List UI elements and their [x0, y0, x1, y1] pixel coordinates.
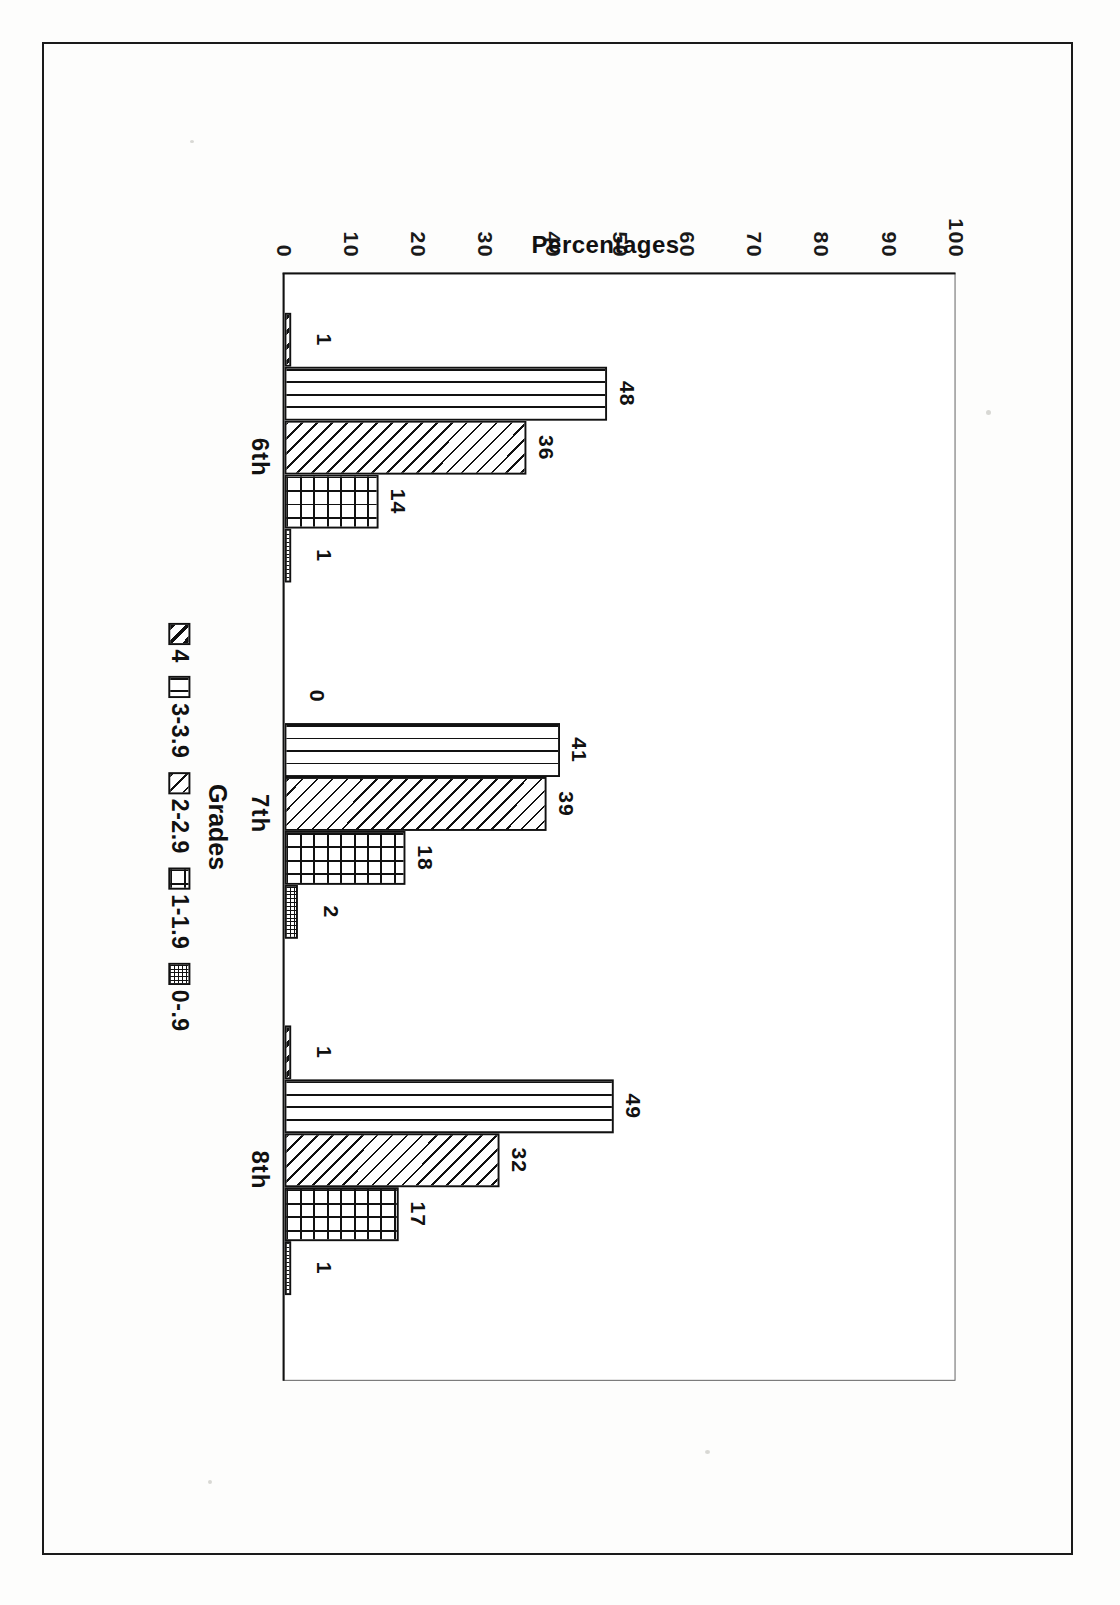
- bar-7th-2-2.9: [284, 776, 546, 830]
- y-tick-label: 80: [809, 198, 834, 258]
- scanned-page: 100 90 80 70 60 50 40 30 20 10 0 Percent…: [0, 0, 1120, 1605]
- scan-speck: [190, 140, 194, 143]
- bar-7th-3-3.9: [284, 723, 560, 777]
- bar-value-label: 48: [614, 371, 639, 415]
- chart-legend: 4 3-3.9 2-2.9 1-1.9 0-.9: [166, 273, 193, 1380]
- bar-value-label: 1: [311, 1245, 336, 1289]
- x-axis-title: Grades: [202, 273, 232, 1380]
- bar-6th-3-3.9: [284, 366, 607, 420]
- bar-value-label: 39: [553, 781, 578, 825]
- legend-item-2-2.9[interactable]: 2-2.9: [166, 771, 193, 853]
- legend-label: 1-1.9: [166, 894, 193, 949]
- bar-7th-1-1.9: [284, 830, 405, 884]
- legend-swatch-icon: [169, 622, 191, 644]
- legend-item-0-.9[interactable]: 0-.9: [166, 962, 193, 1031]
- bar-value-label: 2: [318, 889, 343, 933]
- legend-item-1-1.9[interactable]: 1-1.9: [166, 867, 193, 949]
- y-tick-label: 100: [943, 198, 968, 258]
- bar-value-label: 41: [567, 727, 592, 771]
- bar-6th-1-1.9: [284, 474, 378, 528]
- scan-speck: [208, 1480, 212, 1484]
- legend-label: 0-.9: [166, 989, 193, 1031]
- bar-group-7th: [284, 669, 955, 987]
- x-tick-label-6th: 6th: [246, 385, 274, 529]
- y-tick-label: 20: [405, 198, 430, 258]
- bar-7th-0-.9: [284, 884, 297, 938]
- bar-value-label: 32: [506, 1138, 531, 1182]
- bar-group-6th: [284, 312, 955, 630]
- legend-item-4[interactable]: 4: [166, 622, 193, 662]
- bar-value-label: 1: [311, 1030, 336, 1074]
- bar-value-label: 1: [311, 317, 336, 361]
- bar-value-label: 18: [412, 835, 437, 879]
- bar-8th-4: [284, 1025, 291, 1079]
- bar-value-label: 1: [311, 533, 336, 577]
- scan-speck: [986, 410, 991, 415]
- legend-label: 3-3.9: [166, 703, 193, 758]
- y-tick-label: 10: [338, 198, 363, 258]
- legend-swatch-icon: [169, 676, 191, 698]
- scan-speck: [705, 1450, 710, 1454]
- legend-item-3-3.9[interactable]: 3-3.9: [166, 676, 193, 758]
- y-tick-label: 0: [271, 198, 296, 258]
- x-tick-label-7th: 7th: [246, 741, 274, 885]
- bar-6th-2-2.9: [284, 420, 526, 474]
- legend-swatch-icon: [169, 771, 191, 793]
- y-tick-label: 90: [876, 198, 901, 258]
- x-tick-label-8th: 8th: [246, 1097, 274, 1241]
- chart-figure: 100 90 80 70 60 50 40 30 20 10 0 Percent…: [128, 128, 992, 1476]
- bar-8th-2-2.9: [284, 1133, 499, 1187]
- bar-8th-3-3.9: [284, 1079, 613, 1133]
- bar-value-label: 0: [305, 673, 330, 717]
- bar-6th-0-.9: [284, 528, 291, 582]
- legend-label: 2-2.9: [166, 798, 193, 853]
- bar-8th-0-.9: [284, 1241, 291, 1295]
- bar-group-8th: [284, 1025, 955, 1343]
- bar-8th-1-1.9: [284, 1187, 398, 1241]
- bar-value-label: 49: [620, 1084, 645, 1128]
- legend-swatch-icon: [169, 962, 191, 984]
- y-axis-title: Percentages: [462, 230, 750, 258]
- bar-value-label: 36: [533, 425, 558, 469]
- bar-6th-4: [284, 312, 291, 366]
- bars-layer: 1 48 36 14 1 0 41 39 18 2 1 49 32 17 1: [284, 274, 955, 1380]
- bar-value-label: 14: [385, 479, 410, 523]
- bar-value-label: 17: [405, 1192, 430, 1236]
- legend-label: 4: [166, 649, 193, 662]
- legend-swatch-icon: [169, 867, 191, 889]
